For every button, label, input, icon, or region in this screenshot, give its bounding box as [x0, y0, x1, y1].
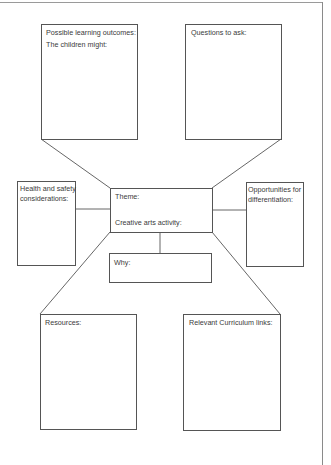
curriculum-label: Relevant Curriculum links:: [189, 318, 272, 328]
theme-box[interactable]: Theme: Creative arts activity:: [110, 188, 213, 233]
opportunities-label: Opportunities for: [248, 185, 301, 195]
differentiation-label: differentiation:: [248, 195, 293, 205]
questions-box[interactable]: Questions to ask:: [185, 24, 282, 140]
questions-label: Questions to ask:: [191, 28, 247, 38]
learning-outcomes-label: Possible learning outcomes:: [46, 28, 136, 38]
learning-outcomes-box[interactable]: Possible learning outcomes: The children…: [41, 24, 138, 140]
considerations-label: considerations:: [20, 194, 68, 204]
health-safety-label: Health and safety: [20, 184, 76, 194]
curriculum-box[interactable]: Relevant Curriculum links:: [183, 314, 281, 431]
children-might-label: The children might:: [46, 40, 107, 50]
differentiation-box[interactable]: Opportunities for differentiation:: [246, 182, 304, 267]
theme-label: Theme:: [115, 192, 139, 202]
resources-box[interactable]: Resources:: [40, 314, 137, 430]
why-label: Why:: [114, 258, 130, 268]
health-safety-box[interactable]: Health and safety considerations:: [17, 181, 76, 266]
creative-arts-activity-label: Creative arts activity:: [115, 218, 182, 228]
why-box[interactable]: Why:: [109, 253, 212, 283]
resources-label: Resources:: [45, 318, 81, 328]
